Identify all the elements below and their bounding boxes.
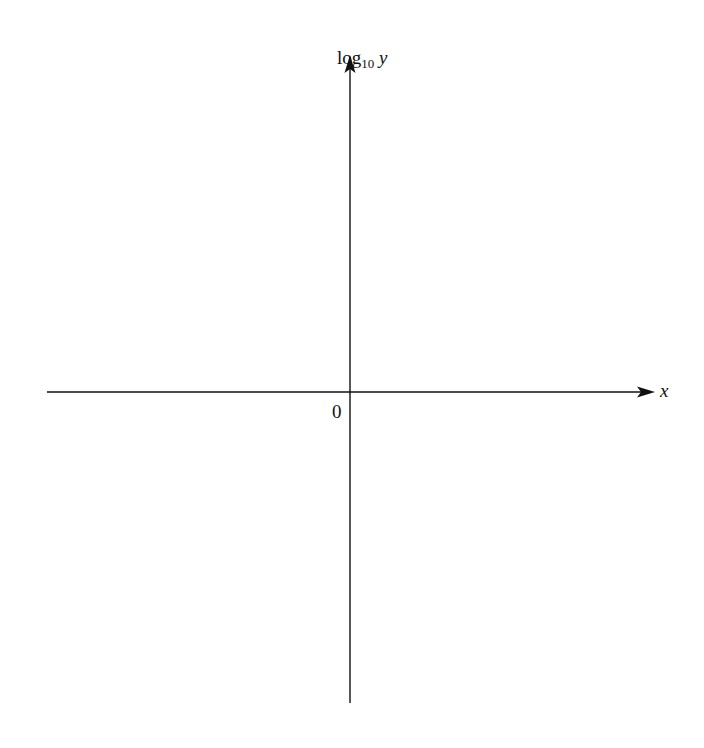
y-axis-label-log: log <box>337 47 361 68</box>
y-axis-label-subscript: 10 <box>361 56 374 71</box>
axes-svg <box>0 0 704 748</box>
origin-label: 0 <box>332 402 342 421</box>
x-axis-label: x <box>660 381 668 400</box>
y-axis-label-var: y <box>379 47 387 68</box>
y-axis-label: log10 y <box>337 48 387 67</box>
